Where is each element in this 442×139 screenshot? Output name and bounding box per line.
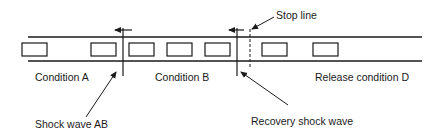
stop-line-label: Stop line <box>276 9 317 21</box>
vehicle <box>313 43 338 56</box>
vehicles <box>22 43 338 56</box>
shock-wave-ab-pointer-arrow-icon <box>86 72 116 117</box>
vehicle <box>167 43 192 56</box>
condition-a-label: Condition A <box>35 71 89 83</box>
vehicle <box>262 43 287 56</box>
recovery-shock-wave-pointer-arrow-icon <box>241 72 288 105</box>
vehicle <box>91 43 116 56</box>
vehicle <box>129 43 154 56</box>
shock-wave-ab-label: Shock wave AB <box>35 118 108 130</box>
vehicle <box>205 43 230 56</box>
vehicle <box>22 43 47 56</box>
stop-line-pointer-arrow-icon <box>252 17 274 29</box>
recovery-shock-wave-label: Recovery shock wave <box>251 115 353 127</box>
shock-wave-diagram: Stop line Condition A Condition B Releas… <box>0 0 442 139</box>
release-condition-d-label: Release condition D <box>315 71 409 83</box>
condition-b-label: Condition B <box>155 71 209 83</box>
